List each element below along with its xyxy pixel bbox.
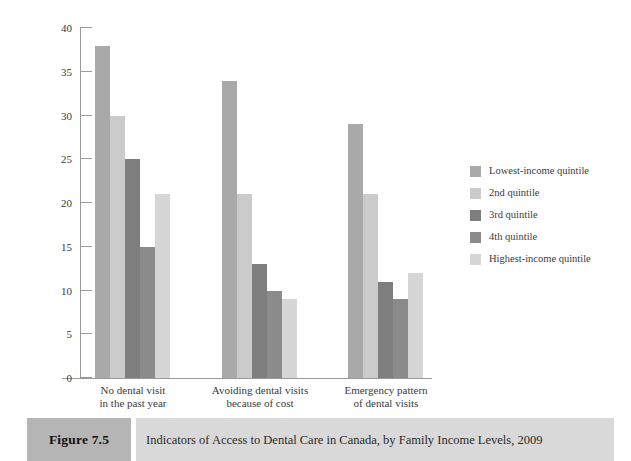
y-tick-mark: [80, 246, 92, 247]
figure-caption-band: Figure 7.5 Indicators of Access to Denta…: [0, 418, 631, 461]
figure-title-text: Indicators of Access to Dental Care in C…: [136, 432, 550, 448]
bar: [393, 299, 408, 378]
y-tick-20: 20: [30, 197, 92, 209]
bar: [237, 194, 252, 378]
legend-swatch: [470, 254, 481, 265]
legend-item: 3rd quintile: [470, 204, 630, 226]
bar: [222, 81, 237, 379]
y-tick-label: 15: [32, 241, 72, 253]
y-tick-label: 25: [32, 153, 72, 165]
y-tick-0: 0: [30, 372, 92, 384]
chart-legend: Lowest-income quintile2nd quintile3rd qu…: [470, 160, 630, 270]
bar-group: [95, 28, 171, 378]
y-tick-mark: [80, 71, 92, 72]
bar-group: [222, 28, 298, 378]
legend-item: Highest-income quintile: [470, 248, 630, 270]
legend-label: 3rd quintile: [489, 209, 538, 221]
y-tick-label: 0: [32, 372, 72, 384]
y-tick-mark: [80, 290, 92, 291]
y-tick-30: 30: [30, 110, 92, 122]
x-axis-line: [62, 378, 432, 379]
bar: [252, 264, 267, 378]
bar: [378, 282, 393, 378]
y-tick-label: 35: [32, 66, 72, 78]
bar: [95, 46, 110, 379]
legend-swatch: [470, 232, 481, 243]
y-tick-mark: [80, 377, 92, 378]
legend-label: 2nd quintile: [489, 187, 539, 199]
figure-number-box: Figure 7.5: [27, 418, 131, 461]
y-tick-10: 10: [30, 285, 92, 297]
bar: [348, 124, 363, 378]
legend-item: 2nd quintile: [470, 182, 630, 204]
bar: [267, 291, 282, 379]
bars-row: [95, 28, 171, 378]
legend-label: Lowest-income quintile: [489, 165, 589, 177]
legend-swatch: [470, 166, 481, 177]
bars-row: [222, 28, 298, 378]
x-axis-group-label: Emergency patternof dental visits: [301, 384, 471, 410]
y-tick-25: 25: [30, 153, 92, 165]
bar: [408, 273, 423, 378]
legend-item: 4th quintile: [470, 226, 630, 248]
y-tick-5: 5: [30, 328, 92, 340]
legend-label: 4th quintile: [489, 231, 537, 243]
legend-swatch: [470, 210, 481, 221]
bar: [110, 116, 125, 379]
y-tick-label: 30: [32, 110, 72, 122]
legend-item: Lowest-income quintile: [470, 160, 630, 182]
y-tick-35: 35: [30, 66, 92, 78]
legend-swatch: [470, 188, 481, 199]
bar: [125, 159, 140, 378]
bar-group: [348, 28, 424, 378]
y-tick-label: 40: [32, 22, 72, 34]
legend-label: Highest-income quintile: [489, 253, 591, 265]
x-axis-group-label-line: Emergency pattern: [301, 384, 471, 397]
bar: [155, 194, 170, 378]
y-tick-15: 15: [30, 241, 92, 253]
bar: [363, 194, 378, 378]
y-tick-mark: [80, 158, 92, 159]
bar: [140, 247, 155, 378]
figure-title-box: Indicators of Access to Dental Care in C…: [136, 418, 614, 461]
y-tick-label: 10: [32, 285, 72, 297]
y-tick-mark: [80, 115, 92, 116]
y-tick-label: 5: [32, 328, 72, 340]
y-tick-40: 40: [30, 22, 92, 34]
figure-number-label: Figure 7.5: [49, 432, 109, 448]
bar: [282, 299, 297, 378]
y-tick-mark: [80, 202, 92, 203]
x-axis-group-label-line: of dental visits: [301, 397, 471, 410]
y-tick-mark: [80, 333, 92, 334]
bars-row: [348, 28, 424, 378]
y-tick-label: 20: [32, 197, 72, 209]
y-tick-mark: [80, 27, 92, 28]
chart-figure: 4035302520151050 No dental visitin the p…: [0, 0, 631, 412]
